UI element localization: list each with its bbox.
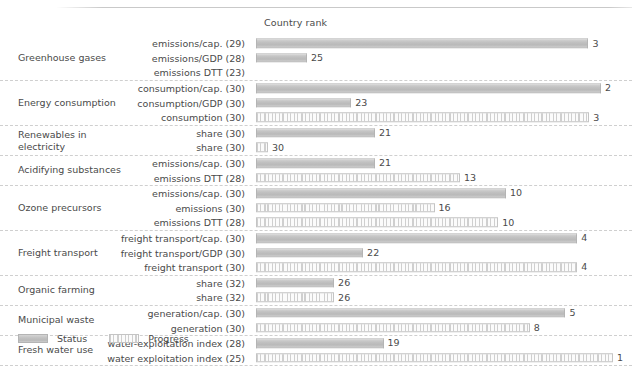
bar-value-label: 30 [272, 142, 284, 153]
status-bar [256, 248, 363, 258]
indicator-label: consumption/cap. (30) [138, 83, 245, 94]
legend-label: Progress [148, 333, 189, 344]
indicator-label: share (30) [196, 142, 245, 153]
indicator-row: generation/cap. (30)5 [0, 306, 632, 321]
bar-container: 3 [256, 113, 599, 123]
indicator-row: freight transport/cap. (30)4 [0, 231, 632, 246]
bar-container: 10 [256, 188, 522, 198]
chart-legend: StatusProgress [18, 333, 211, 344]
bar-container: 23 [256, 98, 367, 108]
progress-bar [256, 262, 577, 272]
indicator-row: water exploitation index (25)1 [0, 350, 632, 365]
indicator-group: Greenhouse gasesemissions/cap. (29)3emis… [0, 36, 632, 81]
bar-container: 16 [256, 203, 451, 213]
progress-bar [256, 293, 334, 303]
indicator-row: emissions/cap. (29)3 [0, 36, 632, 51]
legend-label: Status [57, 333, 87, 344]
bar-value-label: 2 [605, 83, 611, 94]
bar-container: 30 [256, 143, 284, 153]
indicator-label: emissions/cap. (30) [152, 188, 245, 199]
indicator-label: emissions/cap. (30) [152, 158, 245, 169]
bar-value-label: 21 [379, 158, 391, 169]
indicator-label: freight transport/cap. (30) [121, 233, 245, 244]
bar-container: 21 [256, 128, 391, 138]
bar-container: 8 [256, 323, 540, 333]
status-bar [256, 188, 506, 198]
status-bar [256, 128, 375, 138]
progress-bar [256, 173, 460, 183]
indicator-label: emissions DTT (28) [154, 172, 245, 183]
indicator-row: consumption/cap. (30)2 [0, 81, 632, 96]
indicator-label: share (30) [196, 127, 245, 138]
indicator-group: Organic farmingshare (32)26share (32)26 [0, 276, 632, 306]
bar-value-label: 10 [510, 188, 522, 199]
indicator-label: share (32) [196, 277, 245, 288]
indicator-row: emissions DTT (23) [0, 65, 632, 80]
status-bar [256, 39, 588, 49]
indicator-label: generation/cap. (30) [148, 307, 245, 318]
indicator-label: share (32) [196, 292, 245, 303]
indicator-row: emissions/cap. (30)21 [0, 156, 632, 171]
bar-value-label: 13 [464, 172, 476, 183]
indicator-label: emissions DTT (23) [154, 67, 245, 78]
progress-swatch-icon [109, 334, 139, 344]
bar-value-label: 8 [534, 322, 540, 333]
indicator-group: Renewables in electricityshare (30)21sha… [0, 126, 632, 156]
status-swatch-icon [18, 334, 48, 344]
bar-value-label: 26 [338, 277, 350, 288]
indicator-label: water exploitation index (25) [107, 352, 245, 363]
indicator-label: freight transport (30) [144, 262, 245, 273]
top-divider-rule [56, 7, 632, 8]
bar-value-label: 5 [569, 307, 575, 318]
indicator-label: emissions/GDP (28) [152, 52, 245, 63]
bar-value-label: 19 [388, 338, 400, 349]
indicator-row: freight transport (30)4 [0, 260, 632, 275]
indicator-row: emissions (30)16 [0, 201, 632, 216]
bar-container: 3 [256, 39, 598, 49]
indicator-row: emissions DTT (28)10 [0, 215, 632, 230]
progress-bar [256, 113, 589, 123]
bar-container: 13 [256, 173, 476, 183]
legend-item-status: Status [18, 333, 87, 344]
indicator-label: generation (30) [171, 322, 245, 333]
axis-title-country-rank: Country rank [264, 17, 327, 28]
bar-value-label: 10 [502, 217, 514, 228]
legend-item-progress: Progress [109, 333, 189, 344]
bar-container: 4 [256, 233, 587, 243]
indicator-row: emissions/cap. (30)10 [0, 186, 632, 201]
bar-value-label: 4 [581, 233, 587, 244]
indicator-row: consumption (30)3 [0, 110, 632, 125]
status-bar [256, 83, 601, 93]
status-bar [256, 338, 384, 348]
bar-value-label: 3 [592, 38, 598, 49]
indicator-row: consumption/GDP (30)23 [0, 95, 632, 110]
status-bar [256, 278, 334, 288]
indicator-label: emissions (30) [175, 202, 245, 213]
bar-container: 1 [256, 353, 623, 363]
bar-value-label: 26 [338, 292, 350, 303]
bar-container: 19 [256, 338, 400, 348]
bar-container: 25 [256, 53, 323, 63]
indicator-row: share (30)21 [0, 126, 632, 141]
bar-container: 26 [256, 278, 350, 288]
progress-bar [256, 323, 530, 333]
progress-bar [256, 143, 268, 153]
indicator-group: Acidifying substancesemissions/cap. (30)… [0, 156, 632, 186]
progress-bar [256, 353, 613, 363]
indicator-group: Ozone precursorsemissions/cap. (30)10emi… [0, 186, 632, 231]
indicator-row: emissions/GDP (28)25 [0, 51, 632, 66]
bar-container: 10 [256, 218, 514, 228]
bar-container: 21 [256, 158, 391, 168]
indicator-row: share (32)26 [0, 276, 632, 291]
indicator-group: Municipal wastegeneration/cap. (30)5gene… [0, 306, 632, 336]
bar-value-label: 23 [355, 97, 367, 108]
bar-container: 2 [256, 83, 611, 93]
indicator-group: Energy consumptionconsumption/cap. (30)2… [0, 81, 632, 126]
bar-container: 26 [256, 293, 350, 303]
status-bar [256, 53, 307, 63]
indicator-label: emissions/cap. (29) [152, 38, 245, 49]
bar-container: 22 [256, 248, 379, 258]
status-bar [256, 308, 565, 318]
indicator-label: consumption/GDP (30) [137, 97, 245, 108]
bar-value-label: 22 [367, 247, 379, 258]
